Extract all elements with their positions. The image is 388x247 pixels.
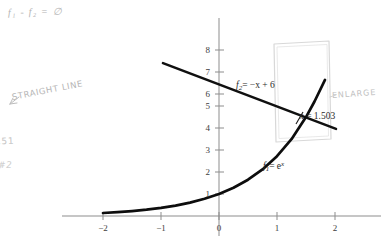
label-root-value: x = 1.503 xyxy=(299,111,335,121)
label-f1-body: = e xyxy=(269,161,281,171)
y-tick-label-7: 7 xyxy=(198,67,210,77)
label-f2-body: = −x + 6 xyxy=(242,80,275,90)
x-tick-label-2: 2 xyxy=(326,223,344,233)
curve-f1-exponential xyxy=(103,80,325,213)
y-tick-label-5: 5 xyxy=(198,101,210,111)
label-function-f2: f2= −x + 6 xyxy=(236,80,275,92)
x-tick-label--2: −2 xyxy=(94,223,112,233)
x-tick-label-0: 0 xyxy=(210,223,228,233)
handwritten-equation-note: f₁ - f₂ = ∅ xyxy=(8,5,63,17)
function-plot xyxy=(0,0,388,247)
x-tick-label--1: −1 xyxy=(152,223,170,233)
handwritten-fragment-upper: .51 xyxy=(0,136,14,147)
handwritten-fragment-lower: #2 xyxy=(0,160,13,171)
label-function-f1: f1= ex xyxy=(263,160,284,173)
y-tick-label-4: 4 xyxy=(198,123,210,133)
y-tick-label-3: 3 xyxy=(198,145,210,155)
enlarge-selection-box[interactable] xyxy=(274,41,331,142)
y-tick-label-6: 6 xyxy=(198,89,210,99)
y-tick-label-1: 1 xyxy=(198,189,210,199)
figure-canvas: −2 −1 0 1 2 1 2 3 4 5 6 7 8 f2= −x + 6 f… xyxy=(0,0,388,247)
y-tick-label-8: 8 xyxy=(198,45,210,55)
label-f1-exponent: x xyxy=(281,160,284,168)
x-tick-label-1: 1 xyxy=(268,223,286,233)
y-tick-label-2: 2 xyxy=(198,167,210,177)
